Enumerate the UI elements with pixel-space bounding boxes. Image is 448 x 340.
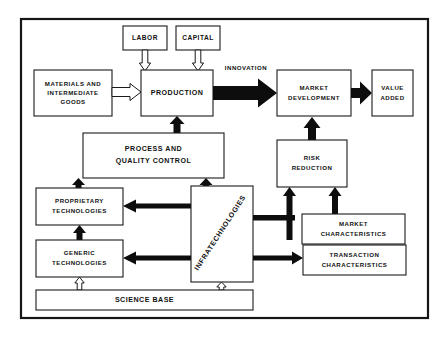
node-production[interactable]: PRODUCTION (141, 70, 213, 116)
node-labor[interactable]: LABOR (123, 26, 167, 50)
node-risk-reduction-line-2: REDUCTION (292, 164, 333, 171)
node-market-characteristics[interactable]: MARKET CHARACTERISTICS (302, 214, 405, 244)
node-transaction-line-2: CHARACTERISTICS (322, 261, 388, 268)
edge-label-innovation: INNOVATION (225, 64, 267, 71)
node-generic-line-2: TECHNOLOGIES (52, 259, 107, 266)
node-risk-reduction-line-1: RISK (304, 154, 321, 161)
node-science-base-label: SCIENCE BASE (115, 296, 174, 304)
node-transaction-line-1: TRANSACTION (330, 251, 380, 258)
node-market-development-line-2: DEVELOPMENT (288, 94, 340, 101)
node-market-characteristics-line-1: MARKET (339, 220, 368, 227)
node-market-characteristics-line-2: CHARACTERISTICS (321, 230, 387, 237)
node-capital-label: CAPITAL (182, 34, 214, 41)
node-market-development[interactable]: MARKET DEVELOPMENT (277, 70, 351, 116)
node-infratechnologies[interactable]: INFRATECHNOLOGIES (191, 186, 253, 282)
node-production-label: PRODUCTION (151, 89, 204, 97)
node-generic-line-1: GENERIC (64, 249, 95, 256)
node-value-added-line-2: ADDED (380, 94, 404, 101)
flow-diagram: LABOR CAPITAL MATERIALS AND INTERMEDIATE… (0, 0, 448, 340)
node-value-added-line-1: VALUE (381, 84, 404, 91)
node-materials-and-intermediate-goods[interactable]: MATERIALS AND INTERMEDIATE GOODS (34, 70, 112, 116)
node-proprietary-line-1: PROPRIETARY (55, 197, 104, 204)
node-proprietary-line-2: TECHNOLOGIES (52, 207, 107, 214)
node-risk-reduction[interactable]: RISK REDUCTION (277, 140, 347, 187)
node-process-quality-line-1: PROCESS AND (125, 145, 182, 153)
node-process-and-quality-control[interactable]: PROCESS AND QUALITY CONTROL (83, 133, 224, 178)
node-science-base[interactable]: SCIENCE BASE (36, 290, 253, 310)
node-generic-technologies[interactable]: GENERIC TECHNOLOGIES (36, 240, 123, 277)
node-capital[interactable]: CAPITAL (176, 26, 220, 50)
node-market-development-line-1: MARKET (299, 84, 328, 91)
node-process-quality-line-2: QUALITY CONTROL (116, 157, 192, 165)
node-proprietary-technologies[interactable]: PROPRIETARY TECHNOLOGIES (36, 188, 123, 225)
node-value-added[interactable]: VALUE ADDED (372, 70, 413, 116)
node-transaction-characteristics[interactable]: TRANSACTION CHARACTERISTICS (303, 245, 406, 275)
node-materials-line-2: INTERMEDIATE (47, 89, 98, 96)
node-labor-label: LABOR (132, 34, 158, 41)
node-materials-line-1: MATERIALS AND (45, 80, 101, 87)
node-materials-line-3: GOODS (60, 98, 85, 105)
diagram-canvas: LABOR CAPITAL MATERIALS AND INTERMEDIATE… (0, 0, 448, 340)
